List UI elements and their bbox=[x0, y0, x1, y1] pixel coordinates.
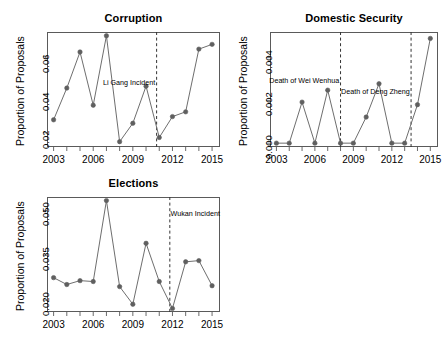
data-point bbox=[197, 258, 201, 262]
y-tick-label-elections-0: 0.020 bbox=[40, 292, 51, 316]
x-tick-label-elections-3: 2012 bbox=[150, 319, 194, 330]
x-tick-label-elections-1: 2006 bbox=[71, 319, 115, 330]
annotation-elections-0: Wukan Incident bbox=[170, 209, 219, 218]
y-tick-label-elections-1: 0.035 bbox=[40, 247, 51, 271]
x-tick-marks-elections bbox=[54, 312, 212, 316]
data-point bbox=[144, 241, 148, 245]
x-tick-label-elections-2: 2009 bbox=[111, 319, 155, 330]
data-point bbox=[51, 275, 55, 279]
data-point bbox=[104, 198, 108, 202]
data-point bbox=[91, 279, 95, 283]
data-point bbox=[210, 284, 214, 288]
data-point bbox=[157, 279, 161, 283]
data-point bbox=[65, 282, 69, 286]
figure-root: CorruptionProportion of Proposals0.020.0… bbox=[0, 0, 444, 338]
data-point bbox=[183, 260, 187, 264]
x-tick-label-elections-0: 2003 bbox=[32, 319, 76, 330]
panel-elections: ElectionsProportion of Proposals0.0200.0… bbox=[0, 0, 444, 338]
data-point bbox=[78, 278, 82, 282]
data-point bbox=[131, 302, 135, 306]
data-point bbox=[170, 306, 174, 310]
plot-canvas-elections bbox=[0, 0, 444, 338]
x-tick-label-elections-4: 2015 bbox=[190, 319, 234, 330]
y-tick-label-elections-2: 0.050 bbox=[40, 203, 51, 227]
data-point bbox=[117, 284, 121, 288]
